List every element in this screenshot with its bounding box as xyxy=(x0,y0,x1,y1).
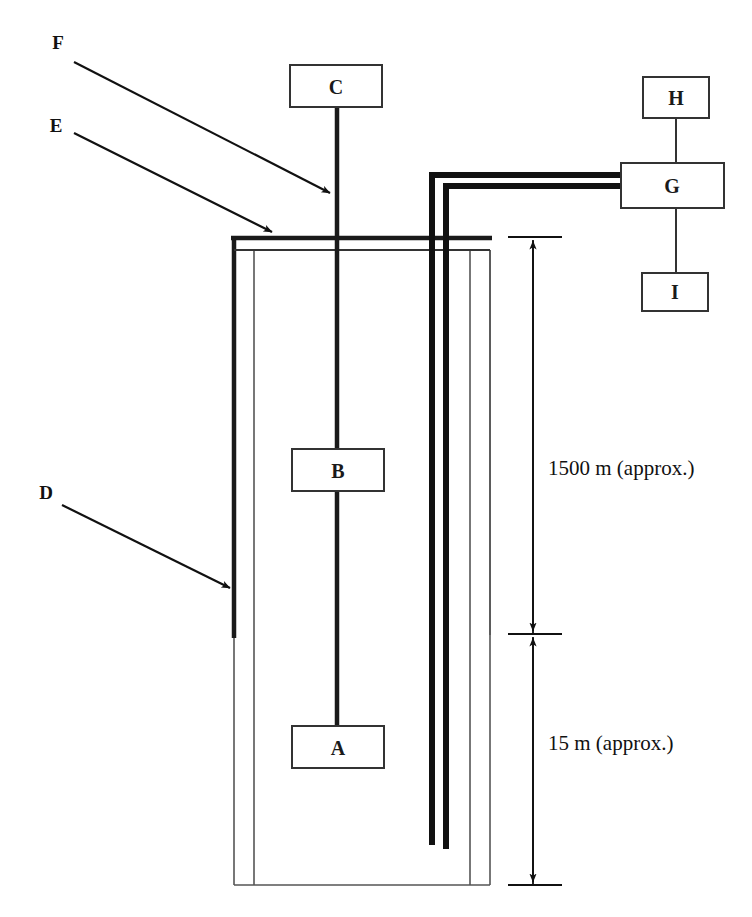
callout-d: D xyxy=(39,482,230,589)
component-box-i[interactable]: I xyxy=(642,273,708,311)
component-box-a[interactable]: A xyxy=(292,726,384,768)
component-box-g[interactable]: G xyxy=(621,163,724,208)
component-box-b[interactable]: B xyxy=(292,449,384,491)
callout-f: F xyxy=(52,32,330,194)
dimension-lower-depth: 15 m (approx.) xyxy=(508,637,673,885)
component-box-c[interactable]: C xyxy=(290,65,382,107)
well-schematic-diagram: C B A H G I F E xyxy=(0,0,752,917)
callout-e-label: E xyxy=(50,115,63,136)
component-box-b-label: B xyxy=(331,460,344,482)
callout-d-label: D xyxy=(39,482,53,503)
component-box-c-label: C xyxy=(329,76,343,98)
wellhead-cap xyxy=(231,238,492,250)
borehole-outline xyxy=(234,250,490,885)
callout-d-leader xyxy=(62,505,230,588)
component-box-h-label: H xyxy=(668,87,684,109)
component-box-h[interactable]: H xyxy=(643,77,709,118)
callout-e: E xyxy=(50,115,272,233)
component-box-g-label: G xyxy=(664,175,680,197)
inner-casing-walls xyxy=(254,250,470,885)
callout-f-label: F xyxy=(52,32,64,53)
dimension-lower-label: 15 m (approx.) xyxy=(548,731,673,755)
outer-casing-segments xyxy=(234,237,490,638)
component-box-i-label: I xyxy=(671,281,679,303)
component-box-a-label: A xyxy=(331,737,346,759)
diagram-canvas: C B A H G I F E xyxy=(0,0,752,917)
dimension-upper-label: 1500 m (approx.) xyxy=(548,456,694,480)
